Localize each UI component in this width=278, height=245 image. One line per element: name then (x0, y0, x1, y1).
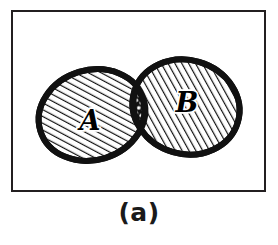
set-a-label: A (77, 105, 101, 136)
figure-frame: A B (11, 10, 266, 192)
set-b-label: B (175, 87, 199, 118)
figure-root: A B (a) (0, 0, 278, 245)
venn-diagram-svg: A B (13, 12, 264, 190)
figure-caption: (a) (0, 196, 278, 230)
